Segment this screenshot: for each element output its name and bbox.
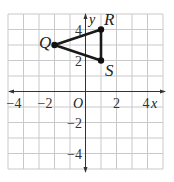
- y-tick-neg2: −2: [67, 116, 82, 131]
- y-axis: [84, 13, 88, 173]
- x-axis-label: x: [150, 96, 158, 111]
- coordinate-plane: Q R S y x O −4 −2 2 4 4 2 −2 −4: [0, 0, 174, 182]
- label-r: R: [103, 10, 115, 29]
- y-tick-neg4: −4: [67, 147, 82, 162]
- x-tick-neg2: −2: [38, 96, 53, 111]
- point-q: [51, 42, 57, 48]
- point-s: [98, 57, 104, 63]
- x-tick-2: 2: [113, 96, 120, 111]
- y-axis-label: y: [87, 12, 96, 27]
- y-tick-4: 4: [75, 23, 82, 38]
- label-q: Q: [39, 33, 51, 52]
- x-tick-neg4: −4: [7, 96, 22, 111]
- x-axis: [8, 90, 166, 94]
- origin-label: O: [73, 96, 83, 111]
- label-s: S: [105, 61, 114, 80]
- x-tick-4: 4: [143, 96, 150, 111]
- y-tick-2: 2: [75, 54, 82, 69]
